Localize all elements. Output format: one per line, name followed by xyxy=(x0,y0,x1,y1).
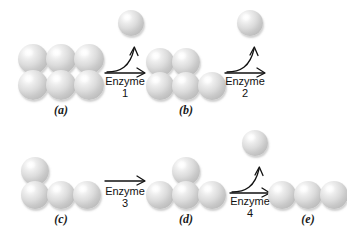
group-label-e: (e) xyxy=(285,212,331,227)
enzyme-number: 2 xyxy=(214,88,276,100)
released-product-sphere xyxy=(242,130,268,156)
sphere xyxy=(320,181,347,209)
enzyme-caption-2: Enzyme 2 xyxy=(214,76,276,100)
sphere xyxy=(47,181,75,209)
group-label-a: (a) xyxy=(38,103,84,118)
sphere xyxy=(294,181,322,209)
sphere xyxy=(21,181,49,209)
sphere xyxy=(46,70,76,100)
sphere xyxy=(146,181,174,209)
released-product-sphere xyxy=(118,10,144,36)
figure-canvas: (a) Enzyme 1 (b) Enzyme 2 xyxy=(0,0,347,242)
enzyme-number: 4 xyxy=(219,208,281,220)
group-label-d: (d) xyxy=(163,212,209,227)
sphere xyxy=(172,72,200,100)
released-product-sphere xyxy=(237,10,263,36)
sphere xyxy=(268,181,296,209)
sphere xyxy=(146,72,174,100)
sphere xyxy=(172,181,200,209)
group-label-b: (b) xyxy=(163,103,209,118)
sphere xyxy=(18,70,48,100)
group-label-c: (c) xyxy=(38,212,84,227)
